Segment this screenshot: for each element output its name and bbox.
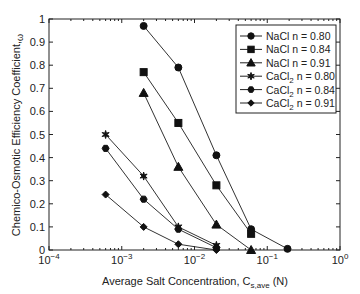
hexagon-marker-icon xyxy=(248,87,254,93)
x-tick-label: 10−2 xyxy=(184,252,206,266)
hexagon-marker-icon xyxy=(140,196,147,202)
y-tick-label: 1 xyxy=(39,13,45,25)
square-marker-icon xyxy=(140,69,147,76)
x-tick-label: 10−4 xyxy=(38,252,60,266)
chart: 00.10.20.30.40.50.60.70.80.9110−410−310−… xyxy=(0,0,360,294)
y-tick-label: 0.7 xyxy=(30,82,45,94)
x-tick-label: 10−3 xyxy=(111,252,133,266)
y-tick-label: 0.6 xyxy=(30,105,45,117)
hexagon-marker-icon xyxy=(175,226,182,232)
legend-label: NaCl n = 0.80 xyxy=(266,30,331,42)
y-axis-label: Chemico-Osmotic Efficiency Coefficient,ω xyxy=(10,34,25,236)
diamond-marker-icon xyxy=(175,241,182,248)
circle-marker-icon xyxy=(175,64,182,71)
triangle-marker-icon xyxy=(174,162,183,170)
legend-label: NaCl n = 0.84 xyxy=(266,43,331,55)
hexagon-marker-icon xyxy=(102,145,109,151)
circle-marker-icon xyxy=(140,22,147,29)
series-3 xyxy=(102,131,220,250)
y-tick-label: 0.4 xyxy=(30,152,45,164)
square-marker-icon xyxy=(213,182,220,189)
x-tick-label: 100 xyxy=(332,252,349,266)
circle-marker-icon xyxy=(284,245,291,252)
y-tick-label: 0.8 xyxy=(30,59,45,71)
triangle-marker-icon xyxy=(139,88,148,96)
square-marker-icon xyxy=(175,119,182,126)
circle-marker-icon xyxy=(248,33,254,39)
legend: NaCl n = 0.80NaCl n = 0.84NaCl n = 0.91C… xyxy=(236,25,336,113)
legend-label: NaCl n = 0.91 xyxy=(266,57,331,69)
y-tick-label: 0.1 xyxy=(30,221,45,233)
series-5 xyxy=(102,191,220,253)
y-tick-label: 0.9 xyxy=(30,36,45,48)
y-tick-label: 0.3 xyxy=(30,175,45,187)
y-tick-label: 0.5 xyxy=(30,129,45,141)
circle-marker-icon xyxy=(213,152,220,159)
square-marker-icon xyxy=(248,46,254,52)
triangle-marker-icon xyxy=(212,220,221,228)
x-tick-label: 10−1 xyxy=(257,252,279,266)
square-marker-icon xyxy=(248,230,255,237)
x-axis-label: Average Salt Concentration, Cs,ave (N) xyxy=(102,275,288,290)
y-tick-label: 0.2 xyxy=(30,198,45,210)
